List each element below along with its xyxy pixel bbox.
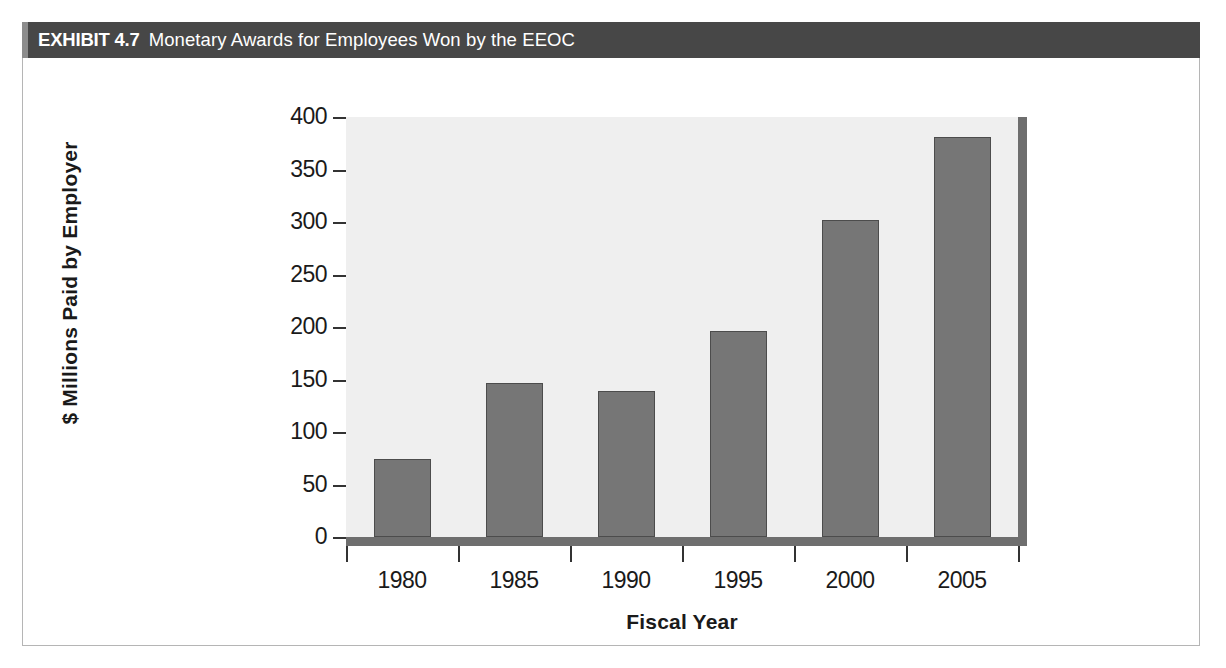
y-axis-title: $ Millions Paid by Employer xyxy=(58,133,82,433)
x-axis-title: Fiscal Year xyxy=(346,610,1018,634)
x-axis-tick xyxy=(458,546,460,562)
y-axis-tick xyxy=(333,170,346,172)
y-axis-tick xyxy=(333,222,346,224)
x-axis-tick-label: 1990 xyxy=(566,567,686,594)
y-axis-tick xyxy=(333,327,346,329)
x-axis-tick xyxy=(794,546,796,562)
y-axis-tick-label: 200 xyxy=(290,315,327,338)
x-axis-tick xyxy=(346,546,348,562)
x-axis-tick xyxy=(570,546,572,562)
y-axis-tick-label: 350 xyxy=(290,158,327,181)
x-axis-tick-label: 1995 xyxy=(678,567,798,594)
bar xyxy=(374,459,431,537)
y-axis-tick xyxy=(333,117,346,119)
y-axis-tick xyxy=(333,275,346,277)
x-axis: Fiscal Year 198019851990199520002005 xyxy=(346,546,1036,636)
exhibit-header: EXHIBIT 4.7Monetary Awards for Employees… xyxy=(22,22,1200,58)
y-axis-tick xyxy=(333,537,346,539)
x-axis-tick xyxy=(1018,546,1020,562)
y-axis-tick-label: 100 xyxy=(290,420,327,443)
y-axis-tick-label: 250 xyxy=(290,263,327,286)
x-axis-tick-label: 2000 xyxy=(790,567,910,594)
bar-series xyxy=(346,117,1018,537)
plot-right-border xyxy=(1018,117,1027,540)
exhibit-header-accent-bar xyxy=(22,22,28,58)
bar xyxy=(710,331,767,537)
x-axis-tick xyxy=(682,546,684,562)
exhibit-body: 050100150200250300350400 Fiscal Year 198… xyxy=(22,58,1200,646)
y-axis-tick-label: 150 xyxy=(290,368,327,391)
exhibit-number-label: EXHIBIT 4.7 xyxy=(38,29,140,50)
y-axis-tick-label: 50 xyxy=(302,473,327,496)
bar xyxy=(598,391,655,537)
x-axis-tick-label: 1985 xyxy=(454,567,574,594)
y-axis-tick xyxy=(333,432,346,434)
x-axis-baseline xyxy=(346,537,1027,546)
x-axis-tick-label: 2005 xyxy=(902,567,1022,594)
exhibit-header-text: EXHIBIT 4.7Monetary Awards for Employees… xyxy=(38,22,575,58)
exhibit-title: Monetary Awards for Employees Won by the… xyxy=(149,29,575,50)
x-axis-tick-label: 1980 xyxy=(342,567,462,594)
bar xyxy=(822,220,879,537)
y-axis-tick-label: 400 xyxy=(290,105,327,128)
y-axis-tick-label: 300 xyxy=(290,210,327,233)
y-axis-tick-label: 0 xyxy=(315,525,327,548)
bar xyxy=(934,137,991,537)
y-axis-tick xyxy=(333,380,346,382)
exhibit-page: EXHIBIT 4.7Monetary Awards for Employees… xyxy=(0,0,1226,668)
bar-chart: 050100150200250300350400 Fiscal Year 198… xyxy=(23,58,1199,644)
y-axis-tick xyxy=(333,485,346,487)
exhibit-container: EXHIBIT 4.7Monetary Awards for Employees… xyxy=(22,22,1200,646)
x-axis-tick xyxy=(906,546,908,562)
bar xyxy=(486,383,543,537)
